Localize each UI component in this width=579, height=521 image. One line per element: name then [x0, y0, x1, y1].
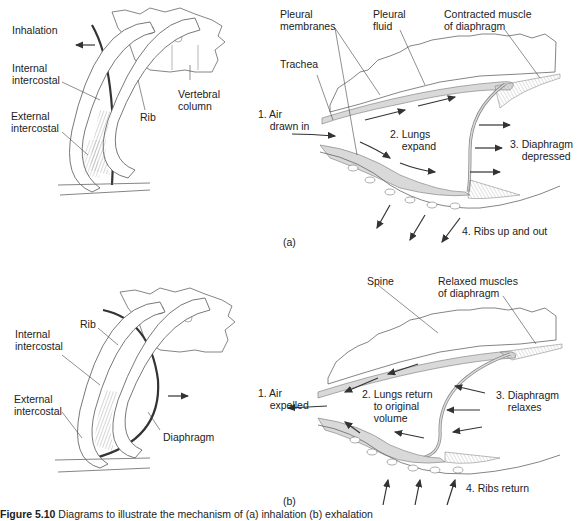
step-3-b: 3. Diaphragm relaxes	[496, 389, 559, 413]
label-inhalation: Inhalation	[12, 24, 58, 36]
label-contracted-muscle: Contracted muscle of diaphragm	[444, 8, 532, 32]
label-external-intercostal-a: External intercostal	[11, 110, 59, 134]
caption-text: Diagrams to illustrate the mechanism of …	[55, 508, 372, 520]
label-spine: Spine	[367, 275, 394, 287]
step-4-a: 4. Ribs up and out	[462, 225, 547, 237]
label-pleural-membranes: Pleural membranes	[280, 8, 335, 32]
step-2-b: 2. Lungs return to original volume	[362, 388, 433, 424]
panel-label-a: (a)	[283, 236, 296, 248]
airflow-arrows-return-icon	[288, 364, 485, 505]
label-vertebral-column: Vertebral column	[178, 88, 220, 112]
label-rib-b: Rib	[80, 318, 96, 330]
label-pleural-fluid: Pleural fluid	[373, 8, 406, 32]
step-1-b: 1. Air expelled	[258, 387, 309, 411]
figure-caption: Figure 5.10 Diagrams to illustrate the m…	[0, 508, 373, 520]
label-internal-intercostal-b: Internal intercostal	[15, 328, 63, 352]
panel-label-b: (b)	[283, 495, 296, 507]
diagram-canvas	[0, 0, 579, 521]
label-trachea: Trachea	[280, 58, 318, 70]
step-4-b: 4. Ribs return	[466, 482, 529, 494]
label-external-intercostal-b: External intercostal	[14, 393, 62, 417]
ribcage-exhalation	[55, 288, 235, 472]
step-2-a: 2. Lungs expand	[390, 128, 436, 152]
step-3-a: 3. Diaphragm depressed	[510, 138, 573, 162]
caption-number: Figure 5.10	[0, 508, 55, 520]
step-1-a: 1. Air drawn in	[258, 108, 309, 132]
label-diaphragm: Diaphragm	[163, 431, 214, 443]
label-rib-a: Rib	[140, 111, 156, 123]
label-internal-intercostal-a: Internal intercostal	[12, 62, 60, 86]
label-relaxed-muscles: Relaxed muscles of diaphragm	[438, 275, 518, 299]
